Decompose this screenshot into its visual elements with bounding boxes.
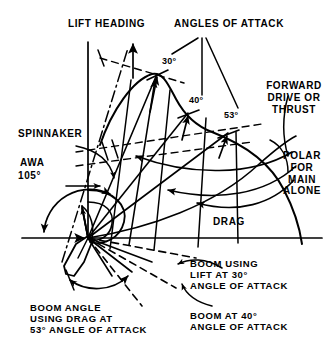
- label-boom-using-lift-30: BOOM USING LIFT AT 30° ANGLE OF ATTACK: [190, 258, 288, 292]
- label-boom-angle-using-drag-53: BOOM ANGLE USING DRAG AT 53° ANGLE OF AT…: [30, 302, 147, 336]
- label-boom-at-40: BOOM AT 40° ANGLE OF ATTACK: [190, 310, 288, 332]
- label-polar-for-main-alone: POLAR FOR MAIN ALONE: [272, 150, 332, 197]
- label-lift-heading: LIFT HEADING: [68, 18, 145, 30]
- grid-line-left: [110, 80, 131, 249]
- label-drag: DRAG: [213, 216, 245, 228]
- label-awa-value: 105°: [18, 170, 41, 182]
- label-angle-30: 30°: [162, 56, 176, 67]
- leader-angles-to-30: [172, 38, 198, 54]
- hatch-tick-a: [98, 50, 104, 66]
- label-forward-drive-or-thrust: FORWARD DRIVE OR THRUST: [256, 80, 332, 115]
- label-angle-53: 53°: [224, 110, 238, 121]
- grid-line-right: [198, 118, 206, 247]
- label-angle-40: 40°: [189, 95, 203, 106]
- label-awa: AWA: [20, 157, 45, 169]
- boom-angle-arc-tick: [66, 270, 74, 290]
- polar-curve-lower-tail: [88, 136, 296, 238]
- boom-line-40: [88, 238, 176, 288]
- hatch-tick-c: [112, 140, 118, 158]
- polar-diagram-figure: LIFT HEADING ANGLES OF ATTACK 30° 40° 53…: [0, 0, 335, 356]
- grid-line-mid: [154, 90, 170, 250]
- label-spinnaker: SPINNAKER: [18, 128, 82, 140]
- label-angles-of-attack: ANGLES OF ATTACK: [174, 18, 284, 30]
- leader-angles-to-53: [206, 38, 238, 108]
- vector-to-40-point: [88, 113, 188, 238]
